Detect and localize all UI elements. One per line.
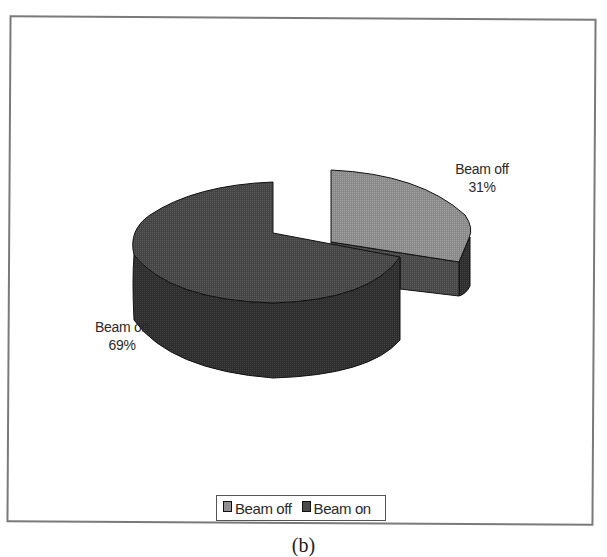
data-label-beam-on-percent: 69% xyxy=(82,336,162,354)
data-label-beam-off-name: Beam off xyxy=(442,160,522,178)
data-label-beam-off-percent: 31% xyxy=(442,178,522,196)
legend-item-beam-off: Beam off xyxy=(223,500,292,517)
figure-caption: (b) xyxy=(0,534,607,557)
legend-swatch-beam-on-icon xyxy=(302,501,311,512)
data-label-beam-on-name: Beam on xyxy=(82,318,162,336)
legend-label-beam-off: Beam off xyxy=(235,500,292,517)
chart-legend: Beam off Beam on xyxy=(216,495,386,521)
data-label-beam-on: Beam on 69% xyxy=(82,318,162,354)
legend-item-beam-on: Beam on xyxy=(302,500,371,517)
legend-label-beam-on: Beam on xyxy=(314,500,371,517)
data-label-beam-off: Beam off 31% xyxy=(442,160,522,196)
legend-swatch-beam-off-icon xyxy=(223,501,232,512)
